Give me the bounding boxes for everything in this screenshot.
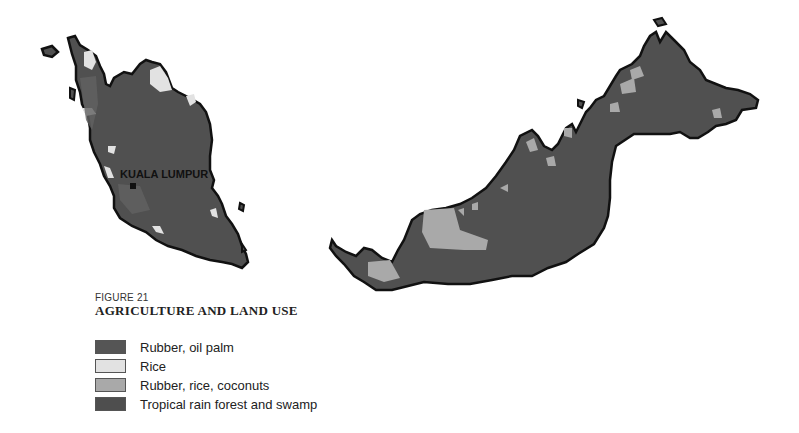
legend-item-rubber-oil-palm: Rubber, oil palm [95, 338, 317, 356]
east-malaysia [330, 18, 758, 290]
figure-caption: FIGURE 21 AGRICULTURE AND LAND USE [95, 292, 298, 319]
legend-swatch [95, 359, 126, 373]
legend: Rubber, oil palm Rice Rubber, rice, coco… [95, 338, 317, 414]
legend-label: Tropical rain forest and swamp [140, 397, 317, 412]
figure-title: AGRICULTURE AND LAND USE [95, 303, 298, 319]
legend-swatch [95, 378, 126, 392]
legend-swatch [95, 340, 126, 354]
legend-item-rain-forest-swamp: Tropical rain forest and swamp [95, 395, 317, 413]
legend-label: Rubber, rice, coconuts [140, 378, 269, 393]
legend-item-rubber-rice-coconuts: Rubber, rice, coconuts [95, 376, 317, 394]
legend-swatch [95, 397, 126, 411]
city-label-kuala-lumpur: KUALA LUMPUR [120, 168, 208, 180]
peninsular-malaysia [42, 36, 248, 268]
legend-item-rice: Rice [95, 357, 317, 375]
legend-label: Rice [140, 359, 166, 374]
city-marker-kuala-lumpur [130, 183, 136, 189]
legend-label: Rubber, oil palm [140, 340, 234, 355]
figure-number: FIGURE 21 [95, 292, 298, 303]
